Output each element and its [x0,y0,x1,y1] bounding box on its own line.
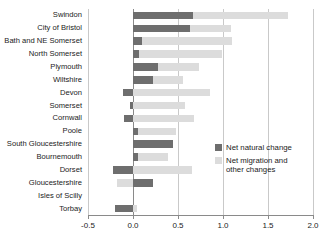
bar-segment-migration [142,37,232,45]
category-label-13: Gloucestershire [0,179,82,187]
bar-row [88,12,313,20]
category-label-0: Swindon [0,11,82,19]
category-label-6: Devon [0,89,82,97]
plot-area [88,9,313,215]
stacked-bar-chart: SwindonCity of BristolBath and NE Somers… [0,0,326,248]
category-label-5: Wiltshire [0,76,82,84]
bar-segment-natural [133,179,153,187]
bar-row [88,102,313,110]
bar-segment-migration [193,12,288,20]
bar-row [88,179,313,187]
bar-segment-natural [124,115,133,123]
legend-swatch-migration [215,157,222,164]
x-tick-label-5: 2.0 [307,221,318,230]
bar-row [88,192,313,200]
category-axis-labels: SwindonCity of BristolBath and NE Somers… [0,9,86,215]
x-tick-label-1: 0.0 [127,221,138,230]
legend-swatch-natural [215,144,222,151]
bar-segment-natural [133,25,190,33]
category-label-12: Dorset [0,166,82,174]
bar-segment-natural [133,76,153,84]
x-tick-2 [178,215,179,219]
x-tick-label-3: 1.0 [217,221,228,230]
bar-row [88,50,313,58]
category-label-8: Cornwall [0,114,82,122]
x-tick-label-2: 0.5 [172,221,183,230]
bar-segment-natural [133,140,173,148]
category-label-7: Somerset [0,102,82,110]
bar-segment-migration [138,153,169,161]
category-label-11: Bournemouth [0,153,82,161]
x-tick-label-0: -0.5 [81,221,95,230]
bar-segment-natural [115,205,133,213]
x-tick-label-4: 1.5 [262,221,273,230]
category-label-2: Bath and NE Somerset [0,37,82,45]
bar-segment-migration [190,25,231,33]
bar-segment-migration [153,76,184,84]
category-label-1: City of Bristol [0,24,82,32]
x-axis-line [88,215,313,216]
bar-segment-migration [138,128,177,136]
x-tick-4 [268,215,269,219]
bar-segment-migration [133,89,210,97]
category-label-15: Torbay [0,205,82,213]
legend-item-net-natural-change: Net natural change [215,143,298,153]
bar-segment-natural [133,12,193,20]
x-tick-0 [88,215,89,219]
x-tick-3 [223,215,224,219]
category-label-10: South Gloucestershire [0,140,82,148]
bar-row [88,115,313,123]
bar-segment-natural [133,37,142,45]
chart-legend: Net natural change Net migration and oth… [215,143,298,178]
bar-row [88,37,313,45]
category-label-4: Plymouth [0,63,82,71]
gridline-2 [313,9,314,215]
bar-segment-migration [133,166,192,174]
bar-segment-migration [133,102,185,110]
legend-label-migration: Net migration and other changes [226,156,298,175]
legend-label-natural: Net natural change [226,143,292,153]
bar-row [88,128,313,136]
bar-segment-migration [133,115,194,123]
category-label-14: Isles of Scilly [0,192,82,200]
bar-segment-migration [117,179,133,187]
x-tick-5 [313,215,314,219]
bar-segment-natural [133,63,158,71]
x-tick-1 [133,215,134,219]
bar-row [88,76,313,84]
category-label-9: Poole [0,127,82,135]
bar-row [88,25,313,33]
bar-row [88,63,313,71]
bar-segment-natural [123,89,133,97]
bar-segment-natural [113,166,133,174]
bar-segment-migration [158,63,199,71]
bar-segment-migration [139,50,222,58]
legend-item-net-migration: Net migration and other changes [215,156,298,175]
bar-row [88,205,313,213]
bar-row [88,89,313,97]
bar-segment-migration [133,205,137,213]
category-label-3: North Somerset [0,50,82,58]
